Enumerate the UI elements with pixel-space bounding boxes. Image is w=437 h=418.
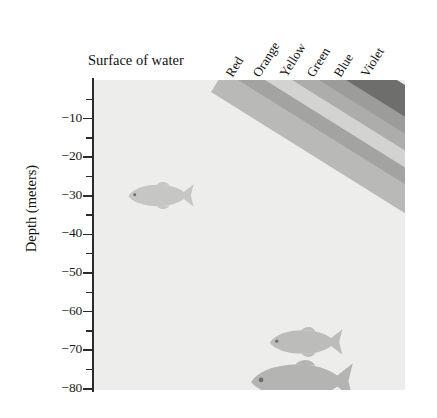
fish-lower [243, 360, 361, 390]
axis-tick-major [83, 349, 93, 351]
y-axis-title: Depth (meters) [23, 134, 40, 284]
axis-tick-major [83, 156, 93, 158]
axis-tick-label: −10 [36, 110, 82, 126]
axis-tick-minor [86, 137, 93, 138]
axis-tick-minor [86, 330, 93, 331]
axis-tick-label: −80 [36, 380, 82, 396]
axis-tick-major [83, 311, 93, 313]
axis-tick-label: −40 [36, 225, 82, 241]
axis-tick-minor [86, 253, 93, 254]
fish-middle [265, 327, 347, 357]
axis-tick-major [83, 195, 93, 197]
axis-tick-label: −60 [36, 303, 82, 319]
axis-tick-minor [86, 292, 93, 293]
fish-upper [125, 182, 197, 209]
surface-of-water-label: Surface of water [88, 52, 184, 69]
band-label-blue: Blue [330, 51, 357, 80]
axis-tick-major [83, 388, 93, 390]
band-label-violet: Violet [357, 45, 387, 80]
axis-tick-label: −50 [36, 264, 82, 280]
band-label-orange: Orange [249, 39, 283, 80]
axis-tick-minor [86, 176, 93, 177]
axis-tick-label: −20 [36, 148, 82, 164]
band-label-red: Red [222, 54, 247, 80]
plot-area [93, 80, 405, 390]
axis-tick-minor [86, 214, 93, 215]
light-penetration-diagram: Surface of water −10−20−30−40−50−60−70−8… [0, 0, 437, 418]
axis-tick-label: −70 [36, 341, 82, 357]
axis-tick-major [83, 118, 93, 120]
axis-tick-minor [86, 369, 93, 370]
axis-tick-label: −30 [36, 187, 82, 203]
axis-tick-major [83, 234, 93, 236]
axis-tick-major [83, 272, 93, 274]
axis-tick-minor [86, 99, 93, 100]
